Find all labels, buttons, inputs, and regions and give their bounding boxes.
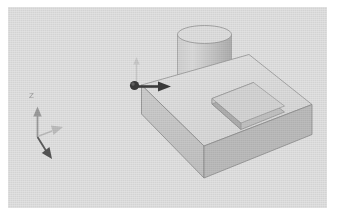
- triad-y-axis: [39, 126, 63, 137]
- triad-x-axis: [38, 137, 53, 159]
- origin-datum-marker[interactable]: [130, 57, 171, 91]
- coordinate-axis-triad[interactable]: [33, 107, 63, 160]
- model-viewport[interactable]: Z: [8, 7, 327, 208]
- origin-sphere-highlight: [131, 82, 134, 85]
- app-root: Z: [0, 0, 337, 218]
- triad-z-axis-label: Z: [29, 92, 34, 100]
- 3d-scene[interactable]: [8, 7, 327, 208]
- cylinder-top-face: [178, 26, 232, 44]
- z-direction-arrow-icon: [133, 57, 139, 83]
- triad-z-axis: [33, 107, 41, 138]
